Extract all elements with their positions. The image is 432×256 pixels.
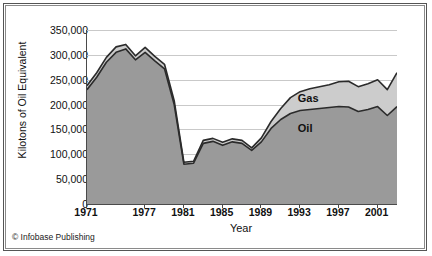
publisher-credit: © Infobase Publishing <box>12 232 95 242</box>
y-tick-label: 350,000 <box>16 25 88 35</box>
plot-area: GasOil <box>86 30 397 205</box>
y-tick-label: 150,000 <box>16 124 88 134</box>
oil-area-path <box>87 49 397 204</box>
series-label-gas: Gas <box>298 92 319 104</box>
y-tick-label: 250,000 <box>16 75 88 85</box>
series-label-oil: Oil <box>298 122 313 134</box>
chart-frame: Kilotons of Oil Equivalent Year 350,0003… <box>3 3 427 251</box>
chart-inner-border: Kilotons of Oil Equivalent Year 350,0003… <box>5 5 425 249</box>
y-tick-label: 50,000 <box>16 174 88 184</box>
y-tick-label: 300,000 <box>16 50 88 60</box>
x-axis-title: Year <box>86 222 396 234</box>
y-tick-label: 200,000 <box>16 100 88 110</box>
y-tick-label: 100,000 <box>16 149 88 159</box>
stacked-area-series <box>87 30 397 204</box>
